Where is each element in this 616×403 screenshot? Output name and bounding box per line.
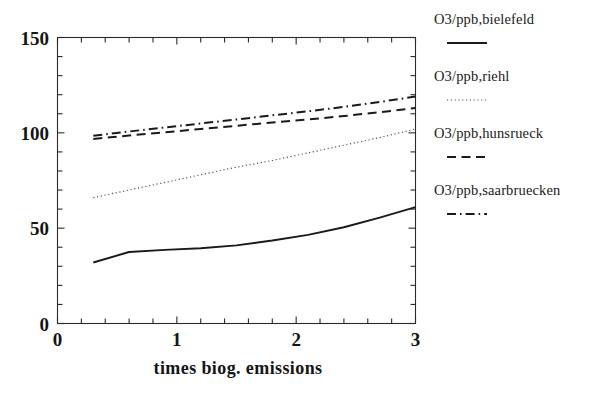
x-tick-label: 3 [411, 330, 421, 349]
legend-label: O3/ppb,bielefeld [434, 12, 534, 27]
legend-label: O3/ppb,riehl [434, 69, 510, 84]
legend-entry[interactable]: O3/ppb,saarbruecken [434, 183, 616, 240]
series-line-bielefeld [93, 207, 415, 262]
y-tick-label: 150 [0, 28, 49, 47]
y-tick-label: 0 [0, 314, 49, 333]
legend-line-sample [446, 152, 488, 162]
legend-entry[interactable]: O3/ppb,riehl [434, 69, 616, 126]
series-line-hunsrueck [93, 108, 415, 139]
axis-ticks [58, 38, 416, 324]
series-line-riehl [93, 129, 415, 198]
legend-entry[interactable]: O3/ppb,hunsrueck [434, 126, 616, 183]
y-tick-label: 100 [0, 123, 49, 142]
x-axis-title: times biog. emissions [154, 358, 323, 379]
legend-line-sample [446, 209, 488, 219]
legend-line-sample [446, 38, 488, 48]
chart-legend: O3/ppb,bielefeldO3/ppb,riehlO3/ppb,hunsr… [434, 0, 616, 403]
data-series-group [93, 97, 415, 263]
legend-line-sample [446, 95, 488, 105]
chart-figure: 050100150 0123 times biog. emissions O3/… [0, 0, 616, 403]
x-tick-label: 1 [172, 330, 182, 349]
x-tick-label: 0 [53, 330, 63, 349]
x-tick-label: 2 [291, 330, 301, 349]
legend-label: O3/ppb,hunsrueck [434, 126, 543, 141]
legend-entry[interactable]: O3/ppb,bielefeld [434, 12, 616, 69]
axis-frame [58, 38, 416, 324]
series-line-saarbruecken [93, 97, 415, 136]
legend-label: O3/ppb,saarbruecken [434, 183, 560, 198]
y-tick-label: 50 [0, 219, 49, 238]
